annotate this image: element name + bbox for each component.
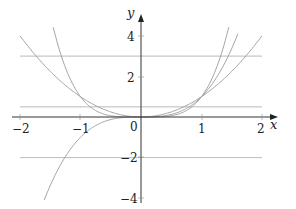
function-plot: −2 −1 0 1 2 4 2 −2 −4 x y: [0, 0, 296, 209]
x-tick-label: 1: [198, 122, 206, 136]
y-axis-label: y: [126, 5, 135, 20]
y-tick-label: −4: [120, 192, 138, 206]
y-tick-label: −2: [120, 151, 138, 165]
x-tick-label: 0: [130, 120, 138, 134]
y-axis-arrow-icon: [138, 14, 144, 22]
y-tick-label: 4: [127, 30, 135, 44]
x-axis-label: x: [270, 117, 278, 132]
x-tick-label: −2: [12, 122, 30, 136]
x-tick-label: −1: [72, 122, 90, 136]
y-tick-label: 2: [127, 71, 135, 85]
x-tick-label: 2: [257, 122, 265, 136]
